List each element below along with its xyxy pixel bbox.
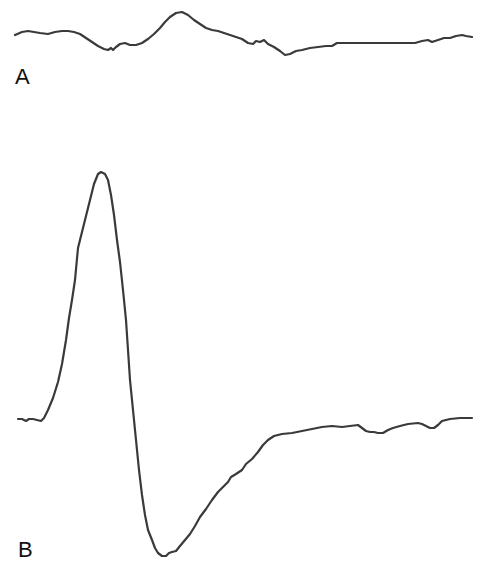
trace-b-line	[18, 172, 472, 556]
panel-label-a: A	[15, 66, 30, 88]
waveform-figure	[0, 0, 499, 580]
trace-a-line	[15, 12, 472, 55]
panel-label-b: B	[18, 539, 33, 561]
